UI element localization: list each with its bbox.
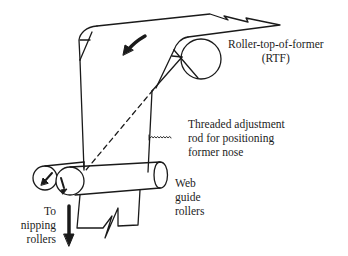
rod-label-line-1: Threaded adjustment (188, 117, 285, 131)
nip-label-line-2: nipping (14, 218, 56, 232)
rod-label-line-3: former nose (188, 145, 285, 159)
web-sheet-lower (77, 190, 140, 238)
threaded-rod (149, 135, 171, 140)
nip-label-line-3: rollers (14, 232, 56, 246)
nip-label-line-1: To (14, 204, 56, 218)
web-guide-roller-front (56, 162, 168, 195)
web-direction-arrow (123, 36, 145, 55)
former-board (86, 90, 153, 172)
web-label-line-3: rollers (175, 204, 204, 218)
rtf-label-line-2: (RTF) (228, 51, 324, 65)
rtf-label: Roller-top-of-former (RTF) (228, 37, 324, 65)
to-nipping-arrow (64, 206, 74, 246)
web-label-line-1: Web (175, 176, 204, 190)
threaded-rod-label: Threaded adjustment rod for positioning … (188, 117, 285, 159)
web-label-line-2: guide (175, 190, 204, 204)
rtf-label-line-1: Roller-top-of-former (228, 37, 324, 51)
web-guide-rollers-label: Web guide rollers (175, 176, 204, 218)
rtf-roller (152, 37, 221, 91)
roller-back-rotation-arrow (41, 173, 52, 185)
nipping-rollers-label: To nipping rollers (14, 204, 56, 246)
rod-label-line-2: rod for positioning (188, 131, 285, 145)
